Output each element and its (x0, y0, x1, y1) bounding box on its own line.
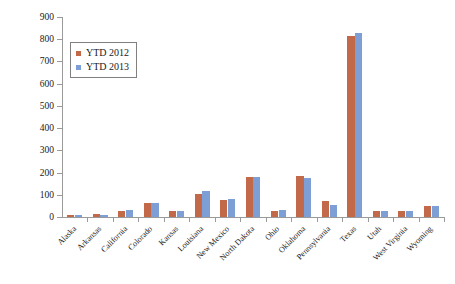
bar (67, 215, 74, 217)
x-axis-tick (113, 218, 114, 222)
legend-swatch-icon-ytd-2013 (76, 65, 81, 70)
y-axis-tick-label: 700 (20, 56, 54, 66)
x-axis-tick (368, 218, 369, 222)
bar (177, 211, 184, 217)
bar (246, 177, 253, 217)
bar-group (169, 17, 184, 217)
x-axis-line (62, 217, 445, 218)
y-axis-tick (57, 217, 62, 218)
bar (373, 211, 380, 217)
bar (381, 211, 388, 217)
x-axis-tick (419, 218, 420, 222)
y-axis-tick-label: 200 (20, 168, 54, 178)
bar (118, 211, 125, 217)
bar-group (144, 17, 159, 217)
y-axis-tick-label: 300 (20, 145, 54, 155)
bar (228, 199, 235, 217)
bar (151, 203, 158, 217)
bar (144, 203, 151, 217)
bar-group (296, 17, 311, 217)
y-axis-tick-label: 500 (20, 101, 54, 111)
bar (100, 215, 107, 217)
bar-group (347, 17, 362, 217)
x-axis-category-label: Ohio (233, 224, 282, 273)
bar (271, 211, 278, 217)
y-axis-tick-label: 400 (20, 123, 54, 133)
bar (304, 178, 311, 217)
bar (322, 201, 329, 217)
x-axis-category-label: Colorado (106, 224, 155, 273)
bar-group (322, 17, 337, 217)
x-axis-tick (164, 218, 165, 222)
chart-legend: YTD 2012 YTD 2013 (70, 42, 137, 78)
legend-label-ytd-2013: YTD 2013 (86, 61, 129, 73)
y-axis-tick-label: 800 (20, 34, 54, 44)
x-axis-tick (444, 218, 445, 222)
bar (424, 206, 431, 217)
rig-count-bar-chart: Rig count 0100200300400500600700800900 A… (0, 0, 455, 284)
x-axis-category-label: Pennsylvania (284, 224, 333, 273)
x-axis-tick (189, 218, 190, 222)
bar (347, 36, 354, 217)
bar (93, 214, 100, 217)
bar-group (246, 17, 261, 217)
bar (355, 33, 362, 217)
bar (202, 191, 209, 217)
x-axis-tick (138, 218, 139, 222)
bar (253, 177, 260, 217)
bar (330, 205, 337, 217)
x-axis-category-label: New Mexico (182, 224, 231, 273)
bar-group (195, 17, 210, 217)
x-axis-category-label: Louisiana (156, 224, 205, 273)
bar (169, 211, 176, 217)
x-axis-tick (291, 218, 292, 222)
bar-group (373, 17, 388, 217)
x-axis-tick (266, 218, 267, 222)
x-axis-tick (215, 218, 216, 222)
y-axis-tick-label: 0 (20, 212, 54, 222)
bar (398, 211, 405, 217)
bar-group (424, 17, 439, 217)
bar (220, 200, 227, 217)
bar (195, 194, 202, 217)
legend-item-ytd-2012: YTD 2012 (76, 46, 129, 60)
bar (296, 176, 303, 217)
bar-group (398, 17, 413, 217)
x-axis-category-label: Arkansas (55, 224, 104, 273)
bar (75, 215, 82, 217)
bar (432, 206, 439, 217)
y-axis-tick-label: 900 (20, 12, 54, 22)
x-axis-tick (240, 218, 241, 222)
bar (279, 210, 286, 217)
x-axis-tick (342, 218, 343, 222)
x-axis-tick (87, 218, 88, 222)
x-axis-tick (317, 218, 318, 222)
x-axis-category-label: Utah (335, 224, 384, 273)
legend-item-ytd-2013: YTD 2013 (76, 60, 129, 74)
bar-group (271, 17, 286, 217)
bar (406, 211, 413, 217)
x-axis-tick (393, 218, 394, 222)
bar-group (220, 17, 235, 217)
legend-swatch-icon-ytd-2012 (76, 51, 81, 56)
legend-label-ytd-2012: YTD 2012 (86, 47, 129, 59)
y-axis-tick-label: 600 (20, 79, 54, 89)
x-axis-category-label: Wyoming (386, 224, 435, 273)
bar (126, 210, 133, 217)
y-axis-tick-label: 100 (20, 190, 54, 200)
